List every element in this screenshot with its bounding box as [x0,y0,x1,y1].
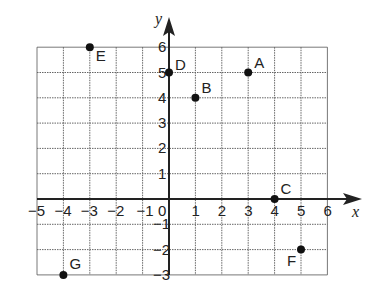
x-tick-label: 5 [297,202,305,219]
x-tick-label: −3 [81,202,98,219]
point-label: C [281,180,292,197]
x-tick-label: −1 [137,202,154,219]
y-tick-label: −1 [153,215,170,232]
y-tick-label: 2 [158,139,166,156]
tick-labels: −5−4−3−2−10123456654321−1−2−3 [28,38,332,283]
x-tick-label: −5 [28,202,45,219]
x-tick-label: 2 [218,202,226,219]
point-c [271,195,279,203]
point-b [191,94,199,102]
grid [37,47,327,275]
x-tick-label: 1 [191,202,199,219]
point-d [165,69,173,77]
x-tick-label: 4 [271,202,279,219]
y-tick-label: 1 [158,165,166,182]
y-tick-label: 4 [158,89,166,106]
point-g [59,271,67,279]
point-label: D [175,56,186,73]
point-label: E [96,47,106,64]
y-tick-label: −2 [153,241,170,258]
point-label: B [201,79,211,96]
x-tick-label: −4 [54,202,71,219]
points: ABCDEFG [59,43,305,279]
x-tick-label: 6 [323,202,331,219]
x-tick-label: −2 [107,202,124,219]
point-a [244,69,252,77]
point-f [297,246,305,254]
y-tick-label: 6 [158,38,166,55]
point-label: G [69,255,81,272]
y-axis-label: y [153,10,163,28]
axes: xy [37,10,362,275]
point-label: A [254,54,264,71]
point-label: F [287,252,296,269]
coordinate-plane: xy −5−4−3−2−10123456654321−1−2−3 ABCDEFG [0,0,376,301]
x-axis-label: x [351,203,359,220]
x-tick-label: 3 [244,202,252,219]
y-tick-label: 3 [158,114,166,131]
y-tick-label: −3 [153,266,170,283]
point-e [86,43,94,51]
